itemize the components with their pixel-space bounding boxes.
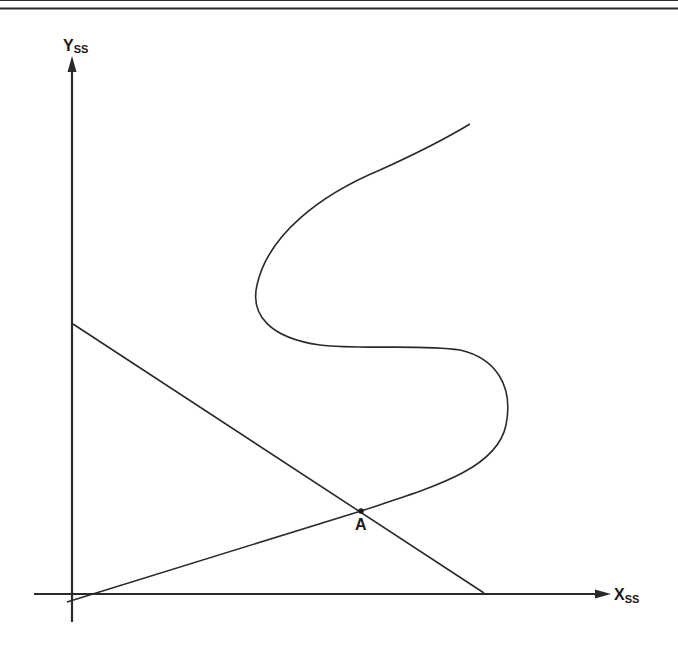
x-axis-label: XSS [614, 586, 639, 605]
x-axis [34, 590, 611, 599]
x-axis-arrowhead-icon [595, 590, 611, 599]
point-a-label: A [355, 516, 367, 533]
phase-diagram: YSS XSS A [0, 0, 678, 647]
y-axis [68, 56, 77, 622]
y-axis-label: YSS [63, 37, 88, 55]
intersection-point-a [358, 508, 364, 514]
y-axis-arrowhead-icon [68, 56, 77, 72]
downward-line [73, 324, 484, 593]
